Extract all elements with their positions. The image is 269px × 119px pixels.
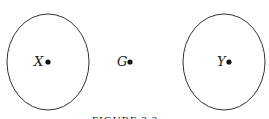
label-g: G [117,54,127,69]
figure-caption: FIGURE 3.3 [92,114,158,119]
label-x: X [33,54,44,69]
point-g-group: G [117,54,133,69]
point-y [226,59,231,64]
point-x [45,59,50,64]
label-y: Y [217,54,227,69]
region-y: Y [183,14,265,110]
point-g [127,59,132,64]
diagram-canvas: X G Y FIGURE 3.3 [0,0,269,119]
region-x: X [7,14,89,110]
